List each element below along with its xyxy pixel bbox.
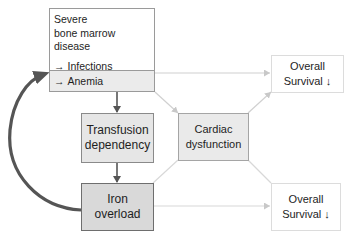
dysfunction-label: dysfunction xyxy=(186,137,242,152)
iron-overload-box: Iron overload xyxy=(81,183,154,231)
overload-label: overload xyxy=(94,207,140,222)
overall-label: Overall xyxy=(290,59,325,74)
edge-cardiac-to-survival-top xyxy=(248,92,271,113)
overall-survival-bottom-box: Overall Survival ↓ xyxy=(271,183,341,231)
cardiac-dysfunction-box: Cardiac dysfunction xyxy=(178,113,249,161)
edge-iron-to-cardiac xyxy=(153,160,178,183)
edge-cardiac-to-survival-bottom xyxy=(248,160,271,183)
severe-bone-marrow-disease-box: Severe bone marrow disease →Infections →… xyxy=(49,8,155,92)
dependency-label: dependency xyxy=(85,138,150,153)
transfusion-label: Transfusion xyxy=(86,123,148,138)
iron-label: Iron xyxy=(107,192,128,207)
arrow-right-icon: → xyxy=(54,74,65,89)
severe-label: Severe xyxy=(50,13,87,27)
list-item-anemia: →Anemia xyxy=(50,70,154,91)
overall-label: Overall xyxy=(289,192,324,207)
edge-anemia-to-cardiac xyxy=(155,92,178,113)
overall-survival-top-box: Overall Survival ↓ xyxy=(271,55,344,93)
cardiac-label: Cardiac xyxy=(195,122,233,137)
anemia-label: Anemia xyxy=(68,74,104,89)
edge-iron-to-anemia-feedback xyxy=(10,75,81,210)
transfusion-dependency-box: Transfusion dependency xyxy=(81,113,154,163)
survival-decrease-label: Survival ↓ xyxy=(284,74,332,89)
bone-marrow-disease-label: bone marrow disease xyxy=(50,27,154,54)
survival-decrease-label: Survival ↓ xyxy=(282,207,330,222)
